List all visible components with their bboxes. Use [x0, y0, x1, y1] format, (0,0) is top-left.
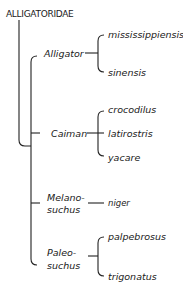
paleosuchus-bracket — [98, 237, 104, 276]
genus-alligator: Alligator — [44, 48, 84, 59]
genus-paleosuchus-line1: Paleo- — [47, 247, 76, 258]
species-label: sinensis — [108, 67, 146, 78]
genus-melanosuchus-line2: suchus — [47, 204, 80, 215]
genus-trunk — [31, 56, 37, 265]
tree-lines — [0, 0, 183, 291]
alligator-bracket — [98, 35, 104, 72]
family-label: ALLIGATORIDAE — [6, 9, 73, 20]
species-label: yacare — [108, 152, 140, 163]
species-label: latirostris — [108, 128, 153, 139]
genus-paleosuchus-line2: suchus — [47, 260, 80, 271]
species-label: crocodilus — [108, 104, 156, 115]
genus-caiman: Caiman — [51, 128, 87, 139]
species-label: palpebrosus — [108, 231, 166, 242]
species-label: trigonatus — [108, 271, 157, 282]
species-label: mississippiensis — [108, 29, 183, 40]
genus-melanosuchus-line1: Melano- — [47, 192, 85, 203]
species-label: niger — [108, 198, 130, 209]
root-branch — [19, 20, 31, 146]
